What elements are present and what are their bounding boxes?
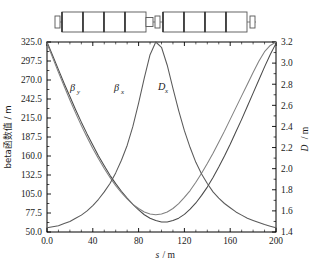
curve-label-0: βy — [69, 82, 81, 95]
lattice-diagram — [0, 0, 321, 38]
plot-area: 325.0297.5270.0242.5215.0187.5160.0132.5… — [0, 36, 321, 266]
lattice-element-quadrupole-5 — [146, 18, 153, 27]
plot-svg: 325.0297.5270.0242.5215.0187.5160.0132.5… — [0, 36, 321, 266]
left-tick-label-3: 242.5 — [21, 94, 42, 104]
lattice-element-dipole-9 — [205, 12, 226, 32]
right-tick-label-1: 3.0 — [281, 58, 293, 68]
curve-label-base-1: β — [113, 82, 120, 93]
curve-label-sub-1: x — [120, 88, 124, 95]
left-tick-label-10: 50.0 — [26, 227, 43, 237]
bottom-tick-label-0: 0.0 — [41, 236, 53, 246]
x-axis-title: s/ m — [156, 249, 176, 260]
lattice-element-dipole-10 — [226, 12, 247, 32]
left-tick-label-5: 187.5 — [21, 132, 42, 142]
curve-label-2: Dx — [157, 81, 168, 94]
lattice-element-dipole-1 — [62, 12, 83, 32]
lattice-element-marker-11 — [250, 16, 255, 28]
left-tick-label-0: 325.0 — [21, 37, 42, 47]
right-tick-label-4: 2.4 — [281, 122, 293, 132]
bottom-tick-label-4: 160 — [223, 236, 237, 246]
right-tick-label-8: 1.6 — [281, 206, 293, 216]
left-tick-label-6: 160.0 — [21, 151, 42, 161]
left-tick-label-8: 105.0 — [21, 189, 42, 199]
bottom-tick-label-3: 120 — [177, 236, 191, 246]
lattice-element-dipole-4 — [125, 12, 146, 32]
lattice-element-dipole-2 — [83, 12, 104, 32]
lattice-element-dipole-8 — [184, 12, 205, 32]
x-axis-title-symbol: s — [156, 249, 160, 260]
y2-axis-title-unit: / m — [299, 126, 310, 139]
x-axis-title-unit: / m — [163, 249, 176, 260]
left-tick-label-2: 270.0 — [21, 75, 42, 85]
curve-label-sub-0: y — [76, 88, 81, 95]
figure-container: 325.0297.5270.0242.5215.0187.5160.0132.5… — [0, 0, 321, 266]
curve-label-1: βx — [113, 82, 124, 95]
right-tick-label-3: 2.6 — [281, 101, 293, 111]
curve-label-base-0: β — [69, 82, 76, 93]
curve-βx — [47, 42, 276, 215]
lattice-element-marker-0 — [55, 16, 60, 28]
right-tick-label-7: 1.8 — [281, 185, 293, 195]
left-tick-label-9: 77.5 — [26, 208, 43, 218]
curve-label-sub-2: x — [164, 87, 168, 94]
y2-axis-title-symbol: D — [299, 144, 310, 152]
curve-Dx — [47, 42, 276, 228]
y-axis-title: beta函数值 / m — [2, 105, 13, 168]
right-tick-label-5: 2.2 — [281, 143, 293, 153]
right-tick-label-0: 3.2 — [281, 37, 293, 47]
lattice-svg — [0, 0, 321, 38]
lattice-element-dipole-7 — [163, 12, 184, 32]
bottom-tick-label-1: 40 — [88, 236, 98, 246]
bottom-tick-label-5: 200 — [269, 236, 283, 246]
lattice-element-dipole-3 — [104, 12, 125, 32]
left-tick-label-4: 215.0 — [21, 113, 42, 123]
plot-frame — [47, 42, 276, 232]
lattice-element-marker-6 — [155, 16, 160, 28]
right-tick-label-6: 2.0 — [281, 164, 293, 174]
bottom-tick-label-2: 80 — [134, 236, 144, 246]
left-tick-label-7: 132.5 — [21, 170, 42, 180]
curve-βy — [47, 42, 276, 222]
right-tick-label-2: 2.8 — [281, 80, 293, 90]
left-tick-label-1: 297.5 — [21, 56, 42, 66]
y2-axis-title: D/ m — [299, 126, 310, 152]
